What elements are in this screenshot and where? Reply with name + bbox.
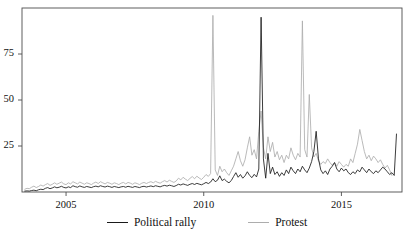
legend-swatch-political-rally: [107, 222, 128, 223]
series-lines: [25, 15, 397, 191]
x-tick-label: 2010: [174, 199, 234, 210]
y-axis-ticks: [18, 54, 22, 146]
legend-swatch-protest: [248, 222, 269, 223]
legend-entry-political-rally: Political rally: [107, 216, 196, 228]
chart-legend: Political rally Protest: [0, 212, 414, 232]
y-tick-label: 25: [0, 139, 14, 150]
x-axis-ticks: [66, 192, 341, 196]
x-tick-label: 2005: [36, 199, 96, 210]
y-tick-label: 75: [0, 47, 14, 58]
legend-entry-protest: Protest: [248, 216, 307, 228]
series-line-protest: [25, 15, 392, 189]
legend-label-political-rally: Political rally: [134, 216, 196, 228]
legend-label-protest: Protest: [275, 216, 307, 228]
y-tick-label: 50: [0, 93, 14, 104]
x-tick-label: 2015: [311, 199, 371, 210]
chart-figure: 255075 200520102015 Political rally Prot…: [0, 0, 414, 235]
